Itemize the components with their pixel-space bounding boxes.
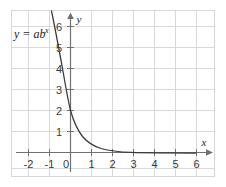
y-tick-label-6: 6 bbox=[56, 21, 62, 33]
x-tick-label-5: 5 bbox=[172, 158, 178, 170]
x-axis-tick-labels: -2 -1 0 1 2 3 4 5 6 bbox=[24, 158, 200, 170]
x-tick-label-3: 3 bbox=[130, 158, 136, 170]
x-tick-label-2: 2 bbox=[109, 158, 115, 170]
graph-canvas: -2 -1 0 1 2 3 4 5 6 1 2 3 4 5 6 y x y = … bbox=[0, 0, 226, 187]
equation-label-exponent: x bbox=[44, 26, 49, 35]
x-tick-label--2: -2 bbox=[24, 158, 34, 170]
x-tick-label-0: 0 bbox=[63, 158, 69, 170]
x-tick-label-1: 1 bbox=[88, 158, 94, 170]
equation-annotation: y = ab x bbox=[13, 26, 49, 41]
exponential-decay-graph-figure: -2 -1 0 1 2 3 4 5 6 1 2 3 4 5 6 y x y = … bbox=[0, 0, 226, 187]
y-tick-label-5: 5 bbox=[56, 42, 62, 54]
equation-label-base: y = ab bbox=[13, 27, 45, 41]
y-tick-label-2: 2 bbox=[56, 105, 62, 117]
x-tick-label--1: -1 bbox=[45, 158, 55, 170]
x-tick-label-6: 6 bbox=[193, 158, 199, 170]
x-axis-name-label: x bbox=[201, 136, 207, 148]
y-tick-label-3: 3 bbox=[56, 84, 62, 96]
y-tick-label-1: 1 bbox=[56, 126, 62, 138]
y-tick-label-4: 4 bbox=[56, 63, 62, 75]
x-tick-label-4: 4 bbox=[151, 158, 157, 170]
y-axis-name-label: y bbox=[76, 13, 82, 25]
